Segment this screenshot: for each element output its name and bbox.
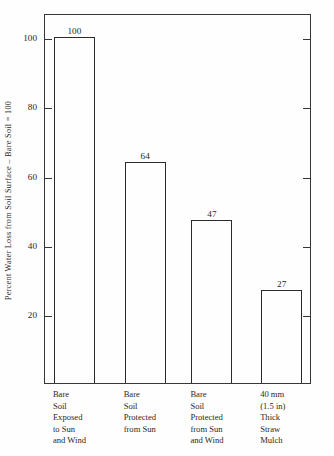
bar-value-label: 27 bbox=[277, 279, 286, 289]
y-axis-tick-label: 100 bbox=[23, 33, 37, 43]
category-label-line: to Sun bbox=[53, 424, 86, 436]
bar-value-label: 64 bbox=[141, 151, 150, 161]
bar bbox=[191, 220, 232, 383]
category-label-line: 40 mm bbox=[260, 389, 285, 401]
bar bbox=[261, 290, 302, 383]
category-label-line: Straw bbox=[260, 424, 285, 436]
y-axis-tick-right bbox=[303, 39, 310, 40]
x-axis-category-labels: BareSoilExposedto Sunand WindBareSoilPro… bbox=[44, 389, 311, 455]
category-label-line: Soil bbox=[124, 401, 156, 413]
y-axis-tick-left bbox=[45, 108, 52, 109]
plot-area: 100644727 bbox=[44, 14, 311, 384]
category-label-line: Exposed bbox=[53, 412, 86, 424]
category-label-line: Protected bbox=[190, 412, 223, 424]
y-axis-tick-labels: 20406080100 bbox=[0, 14, 40, 384]
y-axis-tick-right bbox=[303, 108, 310, 109]
x-axis-category-label: BareSoilProtectedfrom Sun bbox=[124, 389, 156, 435]
y-axis-tick-label: 40 bbox=[28, 241, 37, 251]
y-axis-tick-label: 60 bbox=[28, 172, 37, 182]
category-label-line: (1.5 in) bbox=[260, 401, 285, 413]
category-label-line: Soil bbox=[190, 401, 223, 413]
x-axis-category-label: BareSoilExposedto Sunand Wind bbox=[53, 389, 86, 447]
category-label-line: from Sun bbox=[124, 424, 156, 436]
category-label-line: from Sun bbox=[190, 424, 223, 436]
y-axis-tick-left bbox=[45, 316, 52, 317]
category-label-line: Mulch bbox=[260, 435, 285, 447]
y-axis-tick-right bbox=[303, 316, 310, 317]
x-axis-category-label: BareSoilProtectedfrom Sunand Wind bbox=[190, 389, 223, 447]
category-label-line: Bare bbox=[190, 389, 223, 401]
category-label-line: and Wind bbox=[190, 435, 223, 447]
category-label-line: Protected bbox=[124, 412, 156, 424]
x-axis-category-label: 40 mm(1.5 in)ThickStrawMulch bbox=[260, 389, 285, 447]
y-axis-tick-right bbox=[303, 247, 310, 248]
bar bbox=[125, 162, 166, 383]
category-label-line: Soil bbox=[53, 401, 86, 413]
y-axis-tick-label: 80 bbox=[28, 102, 37, 112]
y-axis-tick-left bbox=[45, 39, 52, 40]
category-label-line: Thick bbox=[260, 412, 285, 424]
y-axis-tick-left bbox=[45, 247, 52, 248]
category-label-line: and Wind bbox=[53, 435, 86, 447]
category-label-line: Bare bbox=[53, 389, 86, 401]
bar bbox=[54, 37, 95, 383]
bar-value-label: 47 bbox=[207, 209, 216, 219]
y-axis-tick-left bbox=[45, 178, 52, 179]
category-label-line: Bare bbox=[124, 389, 156, 401]
bar-value-label: 100 bbox=[67, 26, 81, 36]
y-axis-tick-right bbox=[303, 178, 310, 179]
bar-chart-figure: Percent Water Loss from Soil Surface – B… bbox=[0, 0, 334, 456]
y-axis-tick-label: 20 bbox=[28, 310, 37, 320]
